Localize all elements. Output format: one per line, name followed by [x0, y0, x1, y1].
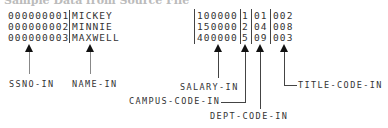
- ssno-label: SSNO-IN: [9, 79, 55, 89]
- name-value: MINNIE: [72, 21, 113, 32]
- salary-value: 400000: [197, 32, 238, 43]
- arrow-elbow: [284, 85, 297, 86]
- arrow-shaft: [90, 52, 91, 74]
- dept-label: DEPT-CODE-IN: [210, 111, 288, 121]
- field-divider: [251, 9, 252, 44]
- arrow-up-icon: [25, 44, 33, 52]
- field-divider: [240, 9, 241, 44]
- arrow-up-icon: [256, 44, 264, 52]
- arrow-shaft: [284, 52, 285, 85]
- arrow-shaft: [245, 52, 246, 102]
- field-divider: [69, 10, 70, 43]
- campus-value: 5: [242, 32, 249, 43]
- name-label: NAME-IN: [72, 79, 118, 89]
- arrow-up-icon: [280, 44, 288, 52]
- arrow-up-icon: [214, 44, 222, 52]
- title-value: 003: [273, 32, 293, 43]
- campus-value: 2: [242, 21, 249, 32]
- field-divider: [270, 9, 271, 44]
- title-value: 002: [273, 10, 293, 21]
- arrow-up-icon: [86, 44, 94, 52]
- salary-label: SALARY-IN: [180, 82, 239, 92]
- salary-value: 100000: [197, 10, 238, 21]
- ssno-value: 000000003: [8, 32, 69, 43]
- ssno-value: 000000002: [8, 21, 69, 32]
- arrow-shaft: [218, 52, 219, 78]
- dept-value: 01: [254, 10, 268, 21]
- field-divider: [194, 9, 195, 44]
- title-label: TITLE-CODE-IN: [298, 80, 383, 90]
- title-value: 008: [273, 21, 293, 32]
- arrow-shaft: [260, 52, 261, 109]
- salary-value: 150000: [197, 21, 238, 32]
- name-value: MAXWELL: [72, 32, 120, 43]
- ssno-value: 000000001: [8, 10, 69, 21]
- arrow-elbow: [221, 102, 246, 103]
- arrow-shaft: [29, 52, 30, 74]
- arrow-up-icon: [241, 44, 249, 52]
- cropped-heading: Sample Data from Source File: [4, 0, 189, 7]
- name-value: MICKEY: [72, 10, 113, 21]
- campus-value: 1: [242, 10, 249, 21]
- campus-label: CAMPUS-CODE-IN: [129, 96, 220, 106]
- dept-value: 04: [254, 21, 268, 32]
- dept-value: 09: [254, 32, 268, 43]
